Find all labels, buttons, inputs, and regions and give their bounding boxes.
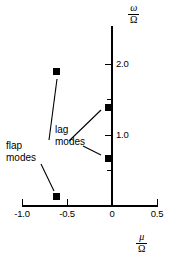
root-plot-figure: -1.0 -0.5 0 0.5 1.0 2.0 ω Ω μ Ω flap mod… <box>0 0 171 265</box>
y-tick-label: 2.0 <box>116 58 129 69</box>
x-tick-label: -1.0 <box>5 208 39 219</box>
x-axis-line <box>22 205 158 207</box>
x-axis-title: μ Ω <box>136 232 147 255</box>
x-tick-label: 0 <box>95 208 129 219</box>
x-axis-title-denominator: Ω <box>136 244 147 254</box>
data-point-flap-upper <box>53 68 60 75</box>
annotation-lag-line1: lag <box>55 124 85 136</box>
y-axis-line <box>111 26 113 206</box>
data-point-flap-lower <box>53 193 60 200</box>
leader-lag-lower <box>83 146 101 155</box>
data-point-lag-upper <box>105 104 112 111</box>
annotation-leader-lines <box>0 0 171 265</box>
x-axis-title-numerator: μ <box>136 232 147 242</box>
y-axis-title-denominator: Ω <box>128 15 139 25</box>
x-tick-mark <box>22 199 23 205</box>
y-tick-mark-major <box>105 64 112 65</box>
y-axis-title: ω Ω <box>128 3 139 26</box>
annotation-flap-line2: modes <box>6 152 36 164</box>
annotation-lag-modes: lag modes <box>55 124 85 147</box>
leader-flap-lower <box>41 164 54 191</box>
x-tick-label: -0.5 <box>50 208 84 219</box>
y-tick-mark-minor <box>107 170 112 171</box>
y-tick-mark-minor <box>107 99 112 100</box>
y-tick-label: 1.0 <box>116 129 129 140</box>
data-point-lag-lower <box>105 155 112 162</box>
x-tick-label: 0.5 <box>140 208 171 219</box>
annotation-lag-line2: modes <box>55 136 85 148</box>
annotation-flap-modes: flap modes <box>6 140 36 163</box>
y-tick-mark-major <box>105 135 112 136</box>
annotation-flap-line1: flap <box>6 140 36 152</box>
y-axis-title-numerator: ω <box>128 3 139 13</box>
x-tick-mark <box>67 199 68 205</box>
x-tick-mark <box>157 199 158 205</box>
